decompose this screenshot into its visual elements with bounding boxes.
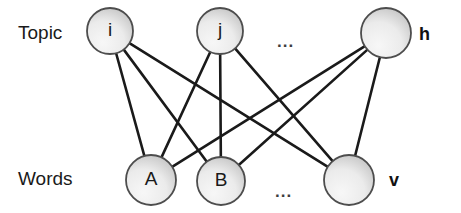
- row-label-words: Words: [18, 168, 73, 190]
- vector-label-v: v: [389, 170, 399, 191]
- vector-label-h: h: [419, 24, 430, 45]
- row-label-topic: Topic: [18, 22, 62, 44]
- edge-j-v: [234, 47, 334, 163]
- ellipsis-topic-row: ...: [277, 32, 294, 52]
- edge-i-v: [128, 42, 330, 168]
- edge-h-B: [237, 48, 369, 166]
- edge-i-A: [116, 51, 145, 158]
- edges-group: [116, 42, 381, 168]
- node-words-B[interactable]: [197, 157, 245, 205]
- edge-h-v: [355, 55, 381, 157]
- node-topic-h[interactable]: [361, 8, 411, 58]
- node-topic-i[interactable]: [87, 8, 133, 54]
- edge-j-B: [220, 52, 221, 159]
- edge-h-A: [170, 45, 366, 168]
- node-words-v[interactable]: [324, 155, 374, 205]
- node-topic-j[interactable]: [197, 8, 243, 54]
- node-words-A[interactable]: [126, 155, 176, 205]
- diagram-canvas: Topic Words h v ... ... ijAB: [0, 0, 461, 213]
- nodes-group: [87, 8, 411, 205]
- ellipsis-words-row: ...: [275, 182, 292, 202]
